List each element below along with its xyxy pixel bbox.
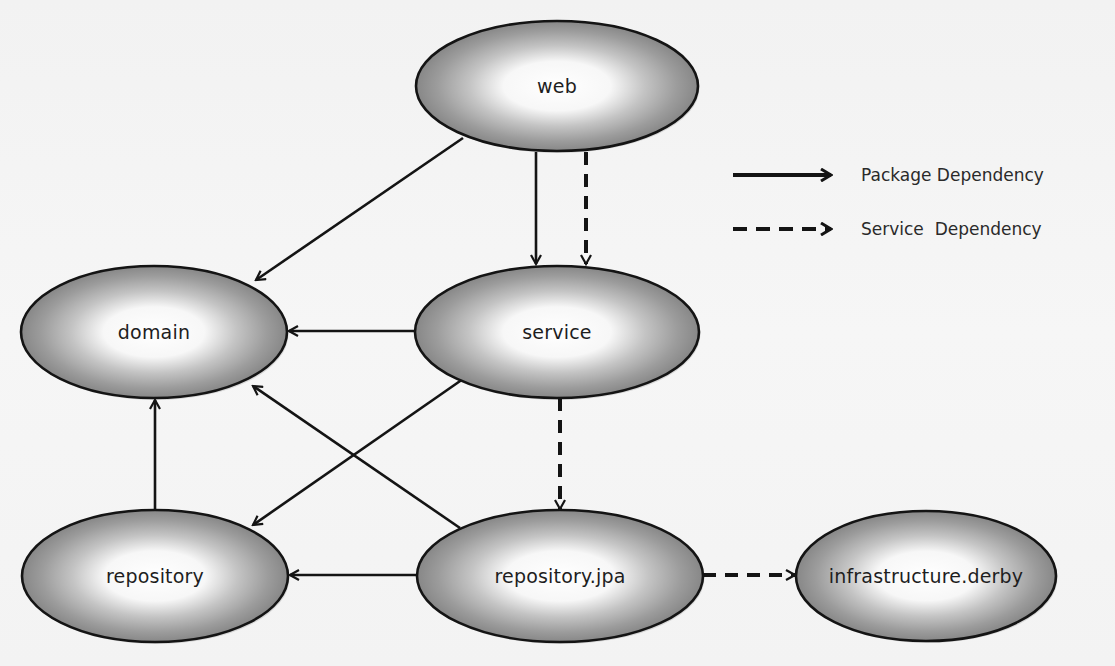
- legend-service-dependency-label: Service Dependency: [861, 219, 1042, 239]
- legend-layer: [733, 175, 831, 229]
- nodes-layer: [21, 21, 1058, 644]
- edge-package-repository-jpa-to-domain: [253, 386, 460, 528]
- diagram-canvas: web domain service repository repository…: [0, 0, 1115, 666]
- node-service[interactable]: [415, 266, 699, 398]
- node-repository-jpa[interactable]: [417, 510, 703, 642]
- legend-package-dependency-label: Package Dependency: [861, 165, 1044, 185]
- edge-package-web-to-domain: [256, 138, 463, 280]
- node-web[interactable]: [416, 21, 698, 151]
- node-repository[interactable]: [22, 510, 288, 642]
- node-infrastructure-derby[interactable]: [796, 511, 1056, 641]
- dependency-diagram: [0, 0, 1115, 666]
- edge-package-service-to-repository: [253, 379, 463, 525]
- node-domain[interactable]: [21, 266, 287, 398]
